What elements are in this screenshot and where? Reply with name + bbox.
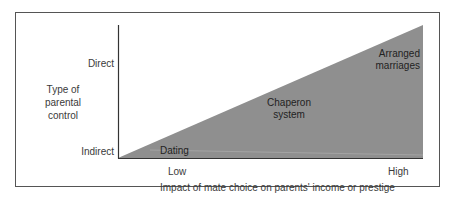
x-tick-low: Low xyxy=(168,166,186,178)
x-axis-label: Impact of mate choice on parents' income… xyxy=(160,182,395,194)
region-label-line: marriages xyxy=(360,60,420,72)
y-tick-indirect: Indirect xyxy=(70,146,114,158)
region-label-chaperon-system: Chaperon system xyxy=(259,97,319,121)
region-label-line: system xyxy=(259,109,319,121)
region-label-line: Chaperon xyxy=(259,97,319,109)
region-label-arranged-marriages: Arranged marriages xyxy=(360,48,420,72)
y-axis-label: Type of parental control xyxy=(30,83,96,122)
y-tick-direct: Direct xyxy=(78,58,114,70)
region-label-dating: Dating xyxy=(160,145,189,157)
region-label-line: Arranged xyxy=(360,48,420,60)
x-tick-high: High xyxy=(388,166,409,178)
parental-control-wedge xyxy=(118,25,423,158)
